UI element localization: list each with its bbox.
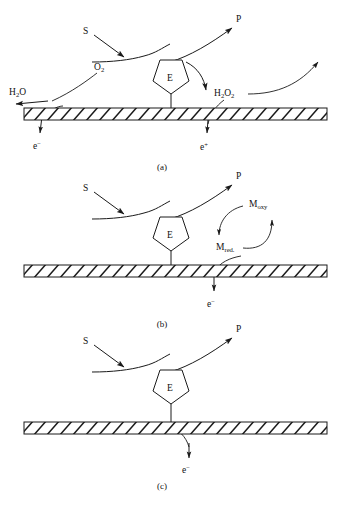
enzyme-label-b: E	[167, 230, 173, 240]
product-arrow-c	[170, 338, 232, 372]
mediator-right-arc-b	[243, 220, 272, 248]
panel-b: S P E Moxy Mred.	[20, 171, 333, 329]
figure-canvas: S P E O2 H2O	[0, 0, 343, 506]
label-product-b: P	[236, 171, 241, 181]
label-electron-b: e−	[207, 298, 215, 309]
product-arrow-a	[170, 28, 232, 62]
positive-arrow-a	[207, 120, 208, 133]
substrate-arrow-c	[94, 345, 124, 367]
peroxide-outflow-a	[248, 62, 318, 94]
label-oxygen-a: O2	[94, 62, 104, 73]
substrate-arrow-a	[94, 35, 124, 57]
peroxide-arrow-a	[186, 62, 206, 90]
substrate-curve-b	[92, 201, 170, 219]
label-positive-a: e+	[200, 141, 208, 152]
label-product-c: P	[236, 324, 241, 334]
label-peroxide-a: H2O2	[214, 88, 234, 99]
label-electron-a: e−	[33, 140, 41, 151]
label-mediator-red-b: Mred.	[216, 242, 235, 253]
label-substrate-a: S	[83, 26, 88, 36]
oxygen-curve-a	[52, 73, 97, 101]
label-mediator-ox-b: Moxy	[249, 199, 268, 210]
substrate-arrow-b	[94, 192, 124, 214]
label-electron-c: e−	[182, 464, 190, 475]
label-product-a: P	[236, 14, 241, 24]
substrate-curve-a	[92, 44, 170, 62]
water-arrow-a	[16, 101, 48, 104]
caption-a: (a)	[157, 162, 167, 172]
caption-c: (c)	[157, 481, 167, 491]
panel-a: S P E O2 H2O	[9, 14, 333, 172]
caption-b: (b)	[157, 319, 168, 329]
label-substrate-b: S	[83, 183, 88, 193]
label-water-a: H2O	[9, 87, 26, 98]
mediator-left-arc-b	[219, 206, 243, 235]
panel-c: S P E e−	[20, 324, 333, 491]
label-substrate-c: S	[83, 336, 88, 346]
product-arrow-b	[170, 185, 232, 219]
enzyme-label-a: E	[167, 73, 173, 83]
substrate-curve-c	[92, 354, 170, 372]
enzyme-label-c: E	[167, 383, 173, 393]
